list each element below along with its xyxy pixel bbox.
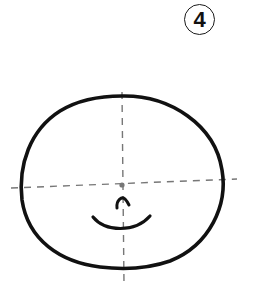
- vertical-guide-line: [122, 92, 124, 284]
- step-number-badge: 4: [184, 4, 215, 35]
- face-drawing: [0, 0, 255, 302]
- mouth-curve: [93, 216, 150, 229]
- drawing-canvas: 4: [0, 0, 255, 302]
- step-number: 4: [193, 9, 205, 31]
- center-dot: [119, 182, 124, 187]
